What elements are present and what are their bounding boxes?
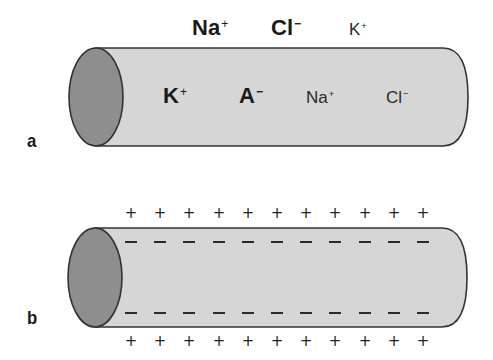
plus-charge-symbol: + — [270, 206, 284, 221]
plus-charge-symbol: + — [387, 206, 401, 221]
minus-charge-symbol — [242, 312, 254, 314]
minus-charge-symbol — [300, 241, 312, 243]
minus-charge-symbol — [213, 312, 225, 314]
plus-charge-symbol: + — [387, 334, 401, 349]
ion-inside-anion: A− — [239, 85, 263, 107]
minus-charge-symbol — [183, 241, 195, 243]
minus-charge-symbol — [125, 241, 137, 243]
minus-charge-symbol — [359, 241, 371, 243]
plus-charge-symbol: + — [182, 206, 196, 221]
minus-charge-symbol — [329, 241, 341, 243]
ion-charge: − — [294, 17, 301, 31]
minus-charge-symbol — [417, 312, 429, 314]
ion-inside-chloride: Cl− — [386, 89, 409, 106]
panel-label-a: a — [27, 131, 36, 150]
plus-charge-symbol: + — [299, 206, 313, 221]
plus-charge-symbol: + — [212, 334, 226, 349]
minus-charge-symbol — [329, 312, 341, 314]
plus-charge-symbol: + — [299, 334, 313, 349]
ion-charge: + — [221, 17, 228, 31]
ion-outside-sodium: Na+ — [192, 17, 228, 39]
ion-inside-sodium: Na+ — [306, 89, 334, 106]
cylinder-a-body — [96, 48, 468, 146]
ion-symbol: A — [239, 83, 255, 108]
plus-charge-symbol: + — [153, 334, 167, 349]
ion-charge: + — [180, 85, 187, 99]
ion-outside-potassium: K+ — [349, 21, 367, 38]
plus-charge-symbol: + — [182, 334, 196, 349]
ion-symbol: Cl — [271, 15, 293, 40]
ion-symbol: Na — [306, 88, 328, 107]
minus-charge-symbol — [271, 312, 283, 314]
ion-symbol: K — [349, 20, 360, 39]
plus-charge-symbol: + — [358, 206, 372, 221]
minus-charge-symbol — [359, 312, 371, 314]
plus-charge-symbol: + — [328, 334, 342, 349]
ion-charge: + — [361, 21, 366, 31]
plus-charge-symbol: + — [270, 334, 284, 349]
cylinder-a-end-cap — [69, 48, 123, 146]
plus-charge-symbol: + — [124, 334, 138, 349]
cylinder-b-end-cap — [68, 228, 122, 327]
ion-symbol: Cl — [386, 88, 402, 107]
minus-charge-symbol — [154, 312, 166, 314]
plus-charge-symbol: + — [212, 206, 226, 221]
minus-charge-symbol — [213, 241, 225, 243]
minus-charge-symbol — [125, 312, 137, 314]
ion-charge: − — [256, 85, 263, 99]
plus-charge-symbol: + — [328, 206, 342, 221]
panel-label-b: b — [27, 308, 37, 327]
axon-membrane-diagram — [0, 0, 493, 360]
ion-symbol: K — [163, 83, 179, 108]
plus-charge-symbol: + — [416, 206, 430, 221]
ion-charge: + — [329, 89, 334, 99]
ion-symbol: Na — [192, 15, 220, 40]
plus-charge-symbol: + — [358, 334, 372, 349]
minus-charge-symbol — [388, 241, 400, 243]
ion-outside-chloride: Cl− — [271, 17, 301, 39]
plus-charge-symbol: + — [124, 206, 138, 221]
minus-charge-symbol — [388, 312, 400, 314]
ion-inside-potassium: K+ — [163, 85, 187, 107]
minus-charge-symbol — [183, 312, 195, 314]
plus-charge-symbol: + — [153, 206, 167, 221]
minus-charge-symbol — [300, 312, 312, 314]
minus-charge-symbol — [271, 241, 283, 243]
minus-charge-symbol — [417, 241, 429, 243]
plus-charge-symbol: + — [416, 334, 430, 349]
plus-charge-symbol: + — [241, 206, 255, 221]
ion-charge: − — [403, 89, 408, 99]
plus-charge-symbol: + — [241, 334, 255, 349]
minus-charge-symbol — [154, 241, 166, 243]
minus-charge-symbol — [242, 241, 254, 243]
